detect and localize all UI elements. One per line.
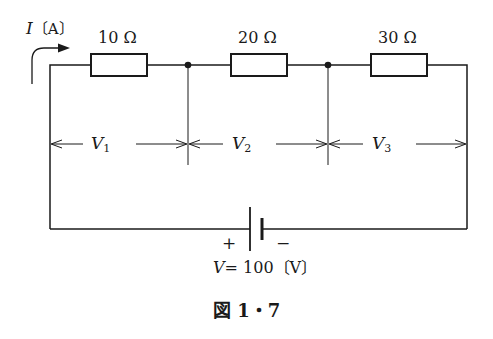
resistor-label-3: 30 Ω bbox=[378, 30, 417, 46]
circuit-diagram bbox=[0, 0, 493, 339]
v2-subscript: 2 bbox=[244, 142, 251, 155]
figure-caption: 図 1・7 bbox=[213, 302, 280, 320]
v2-symbol: V bbox=[232, 133, 244, 153]
v1-subscript: 1 bbox=[103, 142, 110, 155]
current-symbol: I bbox=[26, 18, 33, 38]
battery-minus-sign: − bbox=[276, 235, 290, 252]
voltage-drop-v2: V2 bbox=[232, 135, 251, 154]
resistor-20-ohm bbox=[231, 54, 287, 76]
current-arrow bbox=[32, 48, 62, 84]
source-voltage-label: V= 100〔V〕 bbox=[213, 260, 317, 276]
resistor-label-1: 10 Ω bbox=[98, 30, 137, 46]
voltage-drop-v1: V1 bbox=[91, 135, 110, 154]
current-unit: 〔A〕 bbox=[33, 20, 74, 38]
voltage-drop-v3: V3 bbox=[372, 135, 391, 154]
source-equation: = 100〔V〕 bbox=[225, 258, 318, 277]
v3-subscript: 3 bbox=[384, 142, 391, 155]
v1-symbol: V bbox=[91, 133, 103, 153]
v3-symbol: V bbox=[372, 133, 384, 153]
junction-dot-1 bbox=[185, 62, 192, 69]
wire-top-left bbox=[50, 65, 91, 229]
wire-top-right bbox=[427, 65, 467, 229]
source-symbol: V bbox=[213, 258, 225, 277]
resistor-label-2: 20 Ω bbox=[238, 30, 277, 46]
current-arrowhead-icon bbox=[58, 44, 70, 53]
battery-plus-sign: + bbox=[222, 235, 236, 252]
resistor-30-ohm bbox=[371, 54, 427, 76]
current-label: I〔A〕 bbox=[26, 20, 74, 37]
resistor-10-ohm bbox=[91, 54, 147, 76]
junction-dot-2 bbox=[325, 62, 332, 69]
